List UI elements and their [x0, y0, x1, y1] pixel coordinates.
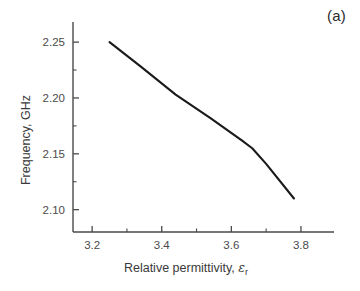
data-series-group: [110, 42, 294, 198]
x-axis-title-text: Relative permittivity,: [124, 261, 238, 275]
axis-tick-labels: 3.23.43.63.82.102.152.202.25: [43, 36, 309, 251]
axes: [73, 22, 334, 232]
x-axis-title-subscript: r: [245, 267, 248, 277]
x-tick-label: 3.8: [293, 239, 309, 251]
axis-ticks: [73, 42, 301, 232]
y-tick-label: 2.15: [43, 148, 65, 160]
y-axis-title: Frequency, GHz: [19, 95, 33, 185]
x-tick-label: 3.4: [154, 239, 171, 251]
y-tick-label: 2.25: [43, 36, 65, 48]
x-tick-label: 3.6: [223, 239, 239, 251]
x-axis-title: Relative permittivity, εr: [124, 260, 248, 277]
x-tick-label: 3.2: [84, 239, 100, 251]
y-tick-label: 2.10: [43, 204, 65, 216]
data-curve: [110, 42, 294, 198]
x-axis-title-group: Relative permittivity, εr: [124, 260, 248, 277]
figure-panel: (a) 3.23.43.63.82.102.152.202.25 Frequen…: [0, 0, 360, 291]
line-chart: 3.23.43.63.82.102.152.202.25 Frequency, …: [0, 0, 360, 291]
y-axis-title-group: Frequency, GHz: [19, 95, 33, 185]
y-tick-label: 2.20: [43, 92, 65, 104]
